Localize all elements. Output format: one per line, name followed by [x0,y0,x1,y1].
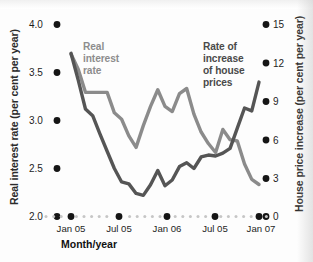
left-tick-label-3: 3.5 [29,67,43,78]
scan-artifact-bottom-caption [8,252,298,261]
x-axis-baseline-dot [227,215,230,218]
left-tick-label-4: 4.0 [29,19,43,30]
x-tick-label-2: Jan 06 [153,223,182,234]
x-tick-dot-1 [116,213,123,220]
right-tick-label-5: 15 [273,19,285,30]
svg-text:Rate of: Rate of [203,41,238,52]
right-tick-dot-2 [263,137,270,144]
x-axis-baseline-dot [204,215,207,218]
x-axis-baseline-dot [90,215,93,218]
x-tick-dot-3 [212,213,219,220]
svg-text:of house: of house [203,65,245,76]
annotation-real-interest-rate: Real interest rate [83,41,120,76]
x-tick-dot-0 [68,213,75,220]
right-tick-label-0: 0 [273,211,279,222]
x-tick-label-3: Jul 05 [202,223,228,234]
x-axis-major-ticks [68,213,263,220]
x-axis-baseline-dot [143,215,146,218]
x-axis-baseline-dot [189,215,192,218]
svg-text:increase: increase [203,53,244,64]
svg-text:rate: rate [83,65,102,76]
right-tick-dot-1 [263,175,270,182]
svg-text:Real: Real [83,41,104,52]
left-tick-label-1: 2.5 [29,163,43,174]
right-tick-label-2: 6 [273,135,279,146]
x-axis-baseline-dot [45,215,48,218]
right-tick-dot-4 [263,60,270,67]
left-tick-dot-3 [54,69,61,76]
x-tick-label-4: Jan 07 [247,223,276,234]
line-chart: Real interest rate (per cent per year) H… [0,0,313,262]
x-axis-baseline-dot [60,215,63,218]
x-axis-baseline-dot [75,215,78,218]
left-tick-label-0: 2.0 [29,211,43,222]
left-axis-title: Real interest rate (per cent per year) [8,29,20,205]
x-axis-baseline-dot [197,215,200,218]
svg-text:prices: prices [203,77,233,88]
left-tick-dot-2 [54,117,61,124]
figure-container: Real interest rate (per cent per year) H… [0,0,313,262]
x-axis-baseline-dot [52,215,55,218]
x-axis-baseline-dot [105,215,108,218]
right-axis-title: House price increase (per cent per year) [293,16,305,212]
x-axis-baseline-dot [98,215,101,218]
x-tick-label-1: Jul 05 [106,223,132,234]
x-axis-tick-labels: Jan 05 Jul 05 Jan 06 Jul 05 Jan 07 [57,223,276,234]
right-axis-ticks: 15 12 9 6 3 0 [263,19,285,222]
x-axis-baseline-dot [250,215,253,218]
left-tick-label-2: 3.0 [29,115,43,126]
right-tick-label-1: 3 [273,173,279,184]
x-tick-dot-4 [256,213,263,220]
x-axis-baseline-dot [181,215,184,218]
right-tick-label-4: 12 [273,58,285,69]
x-axis-baseline-dot [136,215,139,218]
x-axis-baseline-dot [159,215,162,218]
svg-text:interest: interest [83,53,120,64]
x-axis-baseline [45,215,268,218]
x-axis-baseline-dot [235,215,238,218]
x-axis-baseline-dot [174,215,177,218]
x-axis-baseline-dot [265,215,268,218]
left-tick-dot-1 [54,165,61,172]
left-tick-dot-4 [54,21,61,28]
right-tick-dot-3 [263,98,270,105]
x-axis-baseline-dot [219,215,222,218]
x-axis-baseline-dot [151,215,154,218]
annotation-house-prices: Rate of increase of house prices [203,41,245,88]
right-tick-dot-5 [263,21,270,28]
right-tick-label-3: 9 [273,96,279,107]
x-axis-baseline-dot [83,215,86,218]
left-axis-ticks: 4.0 3.5 3.0 2.5 2.0 [29,19,60,222]
x-axis-baseline-dot [128,215,131,218]
x-tick-label-0: Jan 05 [57,223,86,234]
x-axis-title: Month/year [61,238,117,250]
x-axis-baseline-dot [242,215,245,218]
x-tick-dot-2 [164,213,171,220]
